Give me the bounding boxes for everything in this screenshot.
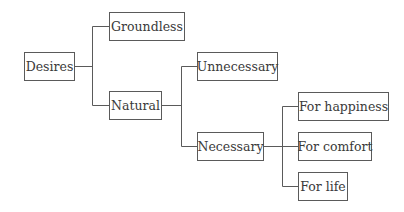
node-unnecessary: Unnecessary xyxy=(197,52,278,81)
node-necessary: Necessary xyxy=(197,132,264,161)
node-natural: Natural xyxy=(109,91,162,120)
node-groundless: Groundless xyxy=(109,12,185,41)
node-for-comfort: For comfort xyxy=(298,132,372,161)
node-for-happiness: For happiness xyxy=(298,92,389,121)
node-for-life: For life xyxy=(298,172,348,201)
node-desires: Desires xyxy=(24,52,75,81)
